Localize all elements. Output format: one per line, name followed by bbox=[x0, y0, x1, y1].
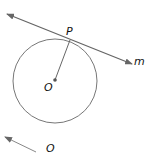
radius-op bbox=[55, 40, 70, 80]
label-m: m bbox=[134, 55, 145, 68]
label-p: P bbox=[66, 25, 73, 38]
center-point-o bbox=[53, 78, 57, 82]
label-o: O bbox=[44, 81, 53, 94]
tangent-line-m bbox=[7, 14, 132, 64]
partial-arrow bbox=[5, 137, 36, 152]
diagram-svg: P m O O bbox=[0, 0, 145, 153]
tangent-circle-diagram: P m O O bbox=[0, 0, 145, 153]
label-o-partial: O bbox=[46, 142, 55, 153]
